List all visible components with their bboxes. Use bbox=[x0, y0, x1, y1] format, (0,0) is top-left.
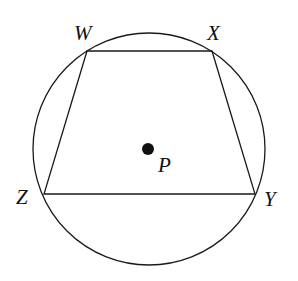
vertex-label-x: X bbox=[206, 21, 221, 45]
quadrilateral-wxyz bbox=[44, 51, 255, 194]
center-label-p: P bbox=[157, 153, 171, 177]
vertex-label-w: W bbox=[74, 21, 94, 45]
vertex-label-z: Z bbox=[16, 185, 28, 209]
geometry-diagram: W X Y Z P bbox=[0, 0, 298, 281]
diagram-svg: W X Y Z P bbox=[0, 0, 298, 281]
center-point-p bbox=[142, 143, 154, 155]
vertex-label-y: Y bbox=[264, 187, 278, 211]
